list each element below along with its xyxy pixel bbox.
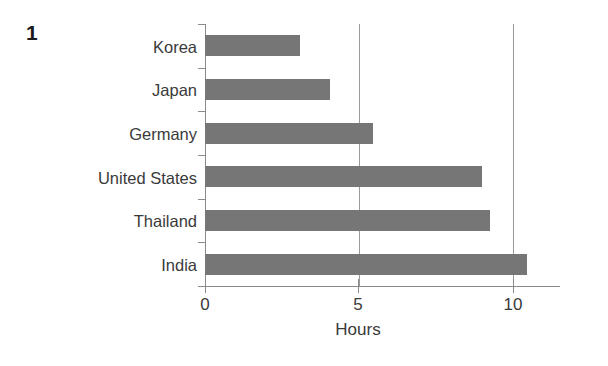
x-axis-ticklabel-10: 10 bbox=[504, 296, 523, 313]
bar-row-japan bbox=[205, 68, 560, 112]
bar-row-thailand bbox=[205, 199, 560, 243]
y-axis-category-labels: Korea Japan Germany United States Thaila… bbox=[0, 24, 197, 286]
x-axis-tick-10 bbox=[513, 279, 514, 293]
bar-united-states[interactable] bbox=[205, 166, 482, 187]
bar-india[interactable] bbox=[205, 254, 527, 275]
x-axis-ticklabel-0: 0 bbox=[200, 296, 209, 313]
bar-korea[interactable] bbox=[205, 35, 300, 56]
y-axis-label-india: India bbox=[7, 257, 197, 274]
plot-area bbox=[205, 24, 560, 286]
y-axis-label-germany: Germany bbox=[7, 126, 197, 143]
bar-thailand[interactable] bbox=[205, 210, 490, 231]
x-axis-tick-5 bbox=[358, 279, 359, 293]
x-axis-tick-0 bbox=[205, 279, 206, 293]
x-axis-ticklabel-5: 5 bbox=[353, 296, 362, 313]
bar-row-india bbox=[205, 242, 560, 286]
x-axis-title: Hours bbox=[335, 321, 380, 338]
y-axis-label-thailand: Thailand bbox=[7, 213, 197, 230]
bar-chart: 1 Korea Japan Germany United States Thai… bbox=[0, 0, 608, 366]
bar-germany[interactable] bbox=[205, 123, 373, 144]
bar-row-united-states bbox=[205, 155, 560, 199]
bar-japan[interactable] bbox=[205, 79, 330, 100]
x-axis-line bbox=[205, 286, 560, 287]
bar-row-germany bbox=[205, 111, 560, 155]
bar-row-korea bbox=[205, 24, 560, 68]
y-axis-label-korea: Korea bbox=[7, 39, 197, 56]
y-axis-label-united-states: United States bbox=[7, 170, 197, 187]
y-axis-label-japan: Japan bbox=[7, 82, 197, 99]
